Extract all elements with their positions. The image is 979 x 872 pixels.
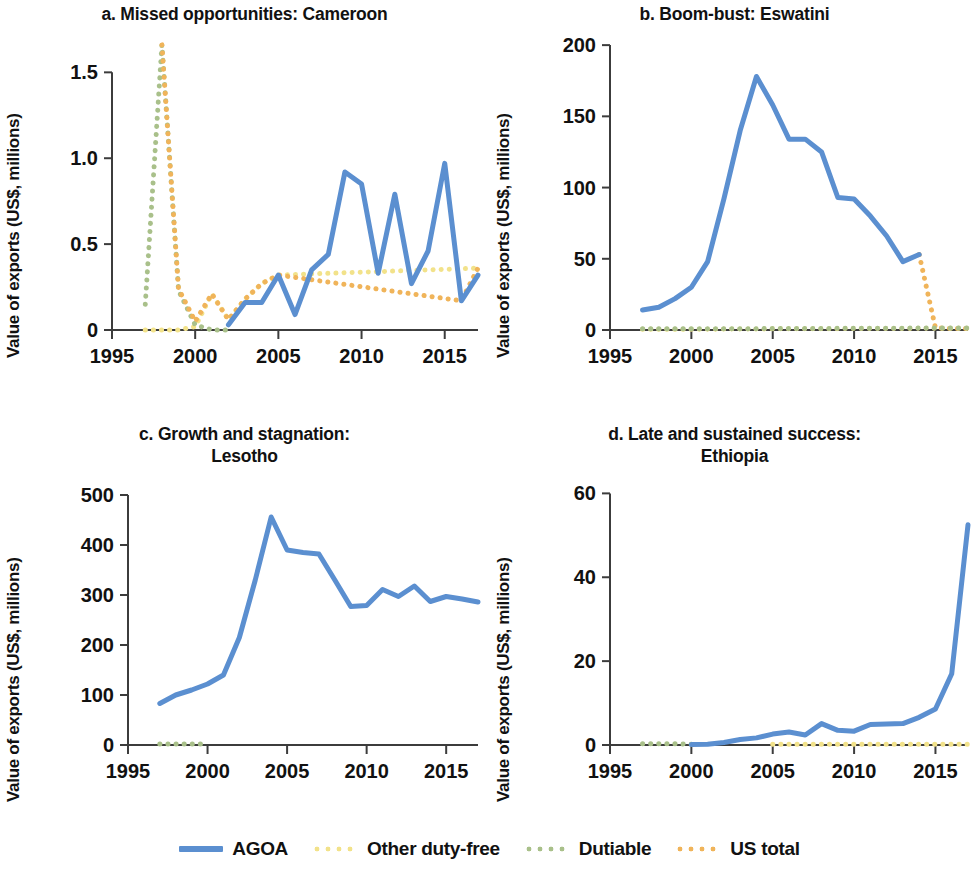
- panel-c-lesotho: c. Growth and stagnation:Lesotho Value o…: [0, 422, 489, 842]
- panel-d-plot: 020406019952000200520102015: [490, 477, 979, 832]
- panel-b-title: b. Boom-bust: Eswatini: [490, 4, 979, 26]
- svg-text:1995: 1995: [588, 760, 633, 782]
- svg-text:0: 0: [585, 734, 596, 756]
- panel-a-plot: 00.51.01.519952000200520102015: [0, 30, 489, 420]
- legend-item-other-duty-free: Other duty-free: [314, 838, 500, 860]
- svg-text:400: 400: [81, 534, 114, 556]
- svg-text:2000: 2000: [669, 345, 714, 367]
- svg-text:1995: 1995: [90, 345, 135, 367]
- svg-text:2010: 2010: [832, 760, 877, 782]
- svg-text:300: 300: [81, 584, 114, 606]
- panel-a-title: a. Missed opportunities: Cameroon: [0, 4, 489, 26]
- svg-text:60: 60: [574, 482, 596, 504]
- svg-text:1.5: 1.5: [70, 61, 98, 83]
- svg-text:2000: 2000: [669, 760, 714, 782]
- panel-b-plot: 05010015020019952000200520102015: [490, 30, 979, 420]
- panel-c-title-line1: c. Growth and stagnation:: [139, 424, 350, 444]
- svg-text:2015: 2015: [913, 760, 958, 782]
- legend-swatch-other-duty-free: [314, 846, 358, 852]
- legend-label-other-duty-free: Other duty-free: [367, 838, 500, 860]
- svg-text:2010: 2010: [832, 345, 877, 367]
- legend-label-dutiable: Dutiable: [579, 838, 652, 860]
- panel-c-title: c. Growth and stagnation:Lesotho: [0, 424, 489, 468]
- svg-text:200: 200: [81, 634, 114, 656]
- legend-item-agoa: AGOA: [179, 838, 288, 860]
- svg-text:2010: 2010: [344, 760, 389, 782]
- svg-text:500: 500: [81, 484, 114, 506]
- svg-text:2010: 2010: [339, 345, 384, 367]
- panel-d-title: d. Late and sustained success:Ethiopia: [490, 424, 979, 468]
- legend-swatch-agoa: [179, 846, 223, 852]
- panel-a-cameroon: a. Missed opportunities: Cameroon Value …: [0, 0, 489, 420]
- legend-label-agoa: AGOA: [232, 838, 288, 860]
- svg-text:2000: 2000: [185, 760, 230, 782]
- svg-text:40: 40: [574, 566, 596, 588]
- svg-text:1995: 1995: [588, 345, 633, 367]
- legend-swatch-us-total: [677, 846, 721, 852]
- svg-text:2005: 2005: [750, 345, 795, 367]
- svg-text:150: 150: [563, 105, 596, 127]
- svg-text:100: 100: [81, 684, 114, 706]
- svg-text:1995: 1995: [106, 760, 151, 782]
- svg-text:2000: 2000: [173, 345, 218, 367]
- svg-text:0.5: 0.5: [70, 233, 98, 255]
- svg-text:2015: 2015: [424, 760, 469, 782]
- svg-text:0: 0: [585, 319, 596, 341]
- panel-c-title-line2: Lesotho: [211, 446, 278, 466]
- svg-text:0: 0: [103, 734, 114, 756]
- svg-text:20: 20: [574, 650, 596, 672]
- svg-text:2015: 2015: [913, 345, 958, 367]
- panel-c-plot: 010020030040050019952000200520102015: [0, 477, 489, 832]
- svg-text:2015: 2015: [422, 345, 467, 367]
- legend-label-us-total: US total: [730, 838, 799, 860]
- svg-text:0: 0: [87, 319, 98, 341]
- panel-d-ethiopia: d. Late and sustained success:Ethiopia V…: [490, 422, 979, 842]
- panel-d-title-line1: d. Late and sustained success:: [608, 424, 861, 444]
- figure-root: a. Missed opportunities: Cameroon Value …: [0, 0, 979, 872]
- svg-text:2005: 2005: [256, 345, 301, 367]
- svg-text:50: 50: [574, 248, 596, 270]
- svg-text:100: 100: [563, 177, 596, 199]
- legend-item-dutiable: Dutiable: [526, 838, 652, 860]
- legend-swatch-dutiable: [526, 846, 570, 852]
- svg-text:2005: 2005: [265, 760, 310, 782]
- legend-item-us-total: US total: [677, 838, 799, 860]
- panel-b-eswatini: b. Boom-bust: Eswatini Value of exports …: [490, 0, 979, 420]
- svg-text:200: 200: [563, 34, 596, 56]
- figure-legend: AGOA Other duty-free Dutiable US total: [0, 838, 979, 860]
- svg-text:1.0: 1.0: [70, 147, 98, 169]
- panel-d-title-line2: Ethiopia: [701, 446, 768, 466]
- svg-text:2005: 2005: [750, 760, 795, 782]
